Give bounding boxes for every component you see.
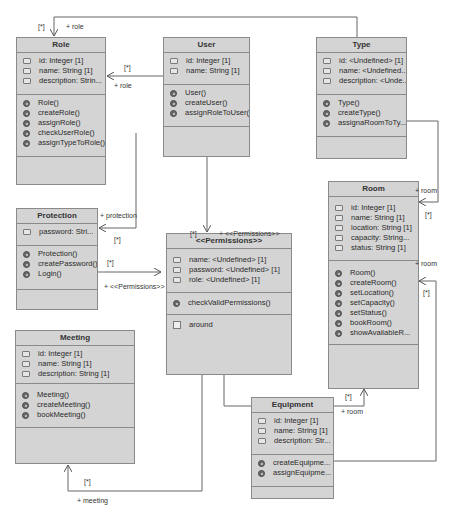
attribute[interactable]: name: <Undefined> [1] xyxy=(173,255,291,265)
empty-section xyxy=(164,127,249,133)
operation[interactable]: assignTypeToRole() xyxy=(23,138,105,148)
attribute[interactable]: password: Stri... xyxy=(23,227,97,237)
operation-icon xyxy=(323,100,330,107)
class-room-name: Room xyxy=(329,182,418,197)
multiplicity-label: [*] xyxy=(107,259,114,266)
attribute-icon xyxy=(23,68,31,74)
operations-section: Role() createRole() assignRole() checkUs… xyxy=(17,95,105,157)
attribute[interactable]: id: Integer [1] xyxy=(170,56,249,66)
attribute[interactable]: name: String [1] xyxy=(23,66,105,76)
operation[interactable]: Login() xyxy=(23,269,97,279)
attribute-icon xyxy=(335,245,343,251)
operation[interactable]: assignaRoomToTy... xyxy=(323,118,406,128)
empty-section xyxy=(329,345,418,351)
attribute[interactable]: role: <Undefined> [1] xyxy=(173,275,291,285)
operation[interactable]: Room() xyxy=(335,268,418,278)
attribute[interactable]: description: String [1] xyxy=(22,369,134,379)
attribute[interactable]: id: Integer [1] xyxy=(258,416,333,426)
operation-icon xyxy=(170,90,177,97)
literal-icon xyxy=(173,321,181,329)
attribute[interactable]: description: Strin... xyxy=(23,76,105,86)
attribute-icon xyxy=(22,371,30,377)
attribute[interactable]: name: <Undefined... xyxy=(323,66,406,76)
attributes-section: id: <Undefined> [1] name: <Undefined... … xyxy=(317,53,406,95)
attribute-icon xyxy=(335,235,343,241)
attribute[interactable]: name: String [1] xyxy=(22,359,134,369)
attribute-icon xyxy=(22,361,30,367)
attribute-icon xyxy=(323,58,331,64)
multiplicity-label: [*] xyxy=(423,289,430,296)
operation-icon xyxy=(335,270,342,277)
operation[interactable]: createRoom() xyxy=(335,278,418,288)
attribute[interactable]: capacity: String... xyxy=(335,233,418,243)
attribute-icon xyxy=(335,225,343,231)
class-equipment-name: Equipment xyxy=(252,398,333,413)
operation[interactable]: assignEquipme... xyxy=(258,468,333,478)
operation[interactable]: createMeeting() xyxy=(22,400,134,410)
class-equipment[interactable]: Equipment id: Integer [1] name: String [… xyxy=(251,397,334,499)
attribute[interactable]: id: Integer [1] xyxy=(335,203,418,213)
operation-icon xyxy=(335,280,342,287)
operation[interactable]: createUser() xyxy=(170,98,249,108)
operation[interactable]: User() xyxy=(170,88,249,98)
empty-section xyxy=(317,137,406,143)
class-role[interactable]: Role id: Integer [1] name: String [1] de… xyxy=(16,37,106,185)
operation[interactable]: bookMeeting() xyxy=(22,410,134,420)
attribute[interactable]: id: <Undefined> [1] xyxy=(323,56,406,66)
operation[interactable]: createType() xyxy=(323,108,406,118)
operation[interactable]: setStatus() xyxy=(335,308,418,318)
attribute[interactable]: location: String [1] xyxy=(335,223,418,233)
operation[interactable]: createPassword() xyxy=(23,259,97,269)
class-protection[interactable]: Protection password: Stri... Protection(… xyxy=(16,208,98,310)
attribute[interactable]: status: String [1] xyxy=(335,243,418,253)
operation[interactable]: checkUserRole() xyxy=(23,128,105,138)
attributes-section: name: <Undefined> [1] password: <Undefin… xyxy=(167,249,291,293)
operations-section: checkValidPermissions() xyxy=(167,293,291,315)
attribute-icon xyxy=(258,438,266,444)
operation[interactable]: assignRoleToUser() xyxy=(170,108,249,118)
operation[interactable]: Protection() xyxy=(23,249,97,259)
operation[interactable]: setLocation() xyxy=(335,288,418,298)
operation[interactable]: Role() xyxy=(23,98,105,108)
operation[interactable]: Meeting() xyxy=(22,390,134,400)
attribute[interactable]: name: String [1] xyxy=(258,426,333,436)
multiplicity-label: [*] xyxy=(124,64,131,71)
operation-icon xyxy=(335,320,342,327)
attribute[interactable]: description: Str... xyxy=(258,436,333,446)
attribute[interactable]: description: <Unde... xyxy=(323,76,406,86)
attribute[interactable]: id: Integer [1] xyxy=(22,349,134,359)
operation[interactable]: Type() xyxy=(323,98,406,108)
operation[interactable]: checkValidPermissions() xyxy=(173,298,291,308)
operation[interactable]: createRole() xyxy=(23,108,105,118)
attribute-icon xyxy=(23,78,31,84)
literal[interactable]: around xyxy=(173,320,291,330)
attribute-icon xyxy=(173,257,181,263)
attribute-icon xyxy=(22,351,30,357)
class-meeting[interactable]: Meeting id: Integer [1] name: String [1]… xyxy=(15,330,135,464)
attribute[interactable]: name: String [1] xyxy=(170,66,249,76)
operation-icon xyxy=(323,110,330,117)
operation[interactable]: setCapacity() xyxy=(335,298,418,308)
attribute[interactable]: name: String [1] xyxy=(335,213,418,223)
attribute-icon xyxy=(258,418,266,424)
operation-icon xyxy=(23,100,30,107)
multiplicity-label: [*] xyxy=(114,236,121,243)
attribute[interactable]: id: Integer [1] xyxy=(23,56,105,66)
operation[interactable]: bookRoom() xyxy=(335,318,418,328)
class-user-name: User xyxy=(164,38,249,53)
operation[interactable]: assignRole() xyxy=(23,118,105,128)
role-label: + room xyxy=(341,408,363,415)
class-user[interactable]: User id: Integer [1] name: String [1] Us… xyxy=(163,37,250,157)
operations-section: User() createUser() assignRoleToUser() xyxy=(164,85,249,127)
multiplicity-label: [*] xyxy=(425,211,432,218)
attribute-icon xyxy=(170,68,178,74)
role-label: + role xyxy=(66,23,84,30)
class-role-name: Role xyxy=(17,38,105,53)
class-type[interactable]: Type id: <Undefined> [1] name: <Undefine… xyxy=(316,37,407,159)
operation[interactable]: showAvailableR... xyxy=(335,328,418,338)
attribute-icon xyxy=(323,68,331,74)
class-room[interactable]: Room id: Integer [1] name: String [1] lo… xyxy=(328,181,419,389)
attribute[interactable]: password: <Undefined> [1] xyxy=(173,265,291,275)
class-permissions[interactable]: <<Permissions>> name: <Undefined> [1] pa… xyxy=(166,233,292,375)
operation[interactable]: createEquipme... xyxy=(258,458,333,468)
